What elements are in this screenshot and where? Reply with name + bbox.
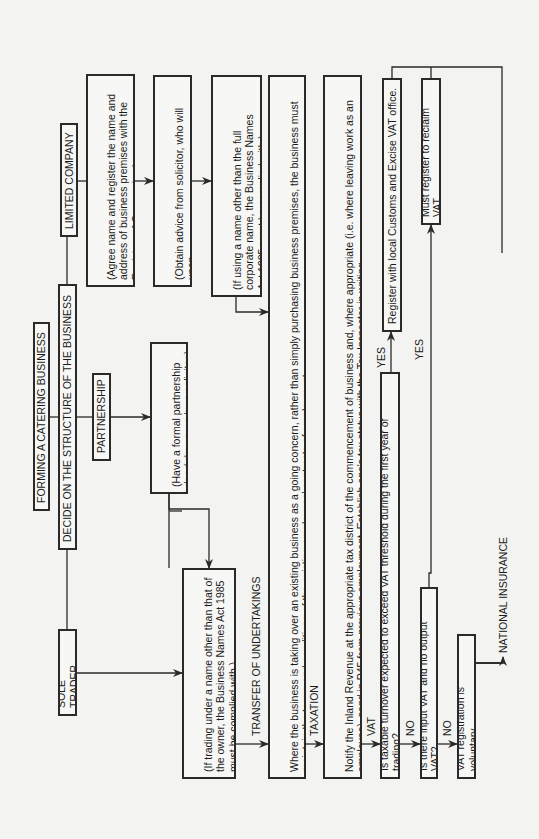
flowchart-canvas: FORMING A CATERING BUSINESS DECIDE ON TH… (0, 0, 539, 839)
national-insurance-arrow (0, 0, 539, 839)
